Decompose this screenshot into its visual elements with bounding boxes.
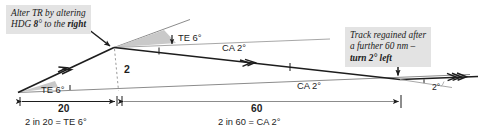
- closing-angle-marker: [400, 79, 452, 87]
- label-offset-distance: 2: [124, 63, 130, 75]
- callout-alter-heading-line2: HDG 8° to the right: [11, 19, 86, 30]
- offset-dashed-line: [115, 49, 119, 91]
- required-track-line: [18, 75, 470, 93]
- dimension-value-leg-1: 20: [55, 103, 72, 114]
- callout-track-regained: Track regained after a further 60 nm – t…: [345, 27, 431, 67]
- callout-track-regained-line3: turn 2° left: [350, 53, 426, 64]
- callout-track-regained-line2: a further 60 nm –: [350, 41, 426, 52]
- callout-track-regained-line1: Track regained after: [350, 30, 426, 41]
- label-track-error-left: TE 6°: [41, 84, 65, 95]
- callout-alter-heading-line2-pre: HDG: [11, 19, 33, 29]
- label-track-error-top: TE 6°: [178, 32, 202, 43]
- dimension-caption-leg-2: 2 in 60 = CA 2°: [218, 117, 280, 127]
- callout-alter-heading: Alter TR by altering HDG 8° to the right: [6, 5, 91, 34]
- dimension-value-leg-2: 60: [248, 103, 265, 114]
- dimension-caption-leg-1: 2 in 20 = TE 6°: [25, 117, 87, 127]
- label-closing-angle-top: CA 2°: [222, 42, 246, 53]
- label-closing-angle-final: 2°: [432, 82, 440, 92]
- diagram-canvas: Alter TR by altering HDG 8° to the right…: [0, 0, 488, 131]
- callout-alter-heading-line2-mid: ° to the: [38, 19, 67, 29]
- callout-alter-heading-direction: right: [67, 19, 86, 29]
- leg-2-direction-chevrons: [240, 59, 255, 66]
- callout-track-regained-turn: turn 2° left: [350, 53, 392, 63]
- callout-alter-heading-line1: Alter TR by altering: [11, 8, 86, 19]
- label-closing-angle-mid: CA 2°: [297, 80, 321, 91]
- callout-left-leader-arrow: [88, 29, 110, 46]
- correction-wedge: [114, 30, 176, 48]
